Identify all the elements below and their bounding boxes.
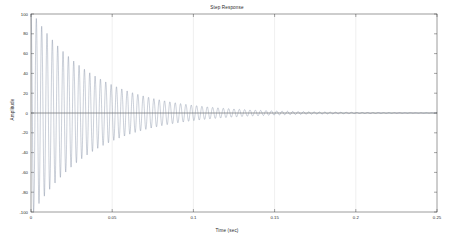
y-tick-label: -100 [12, 210, 28, 215]
chart-title: Step Response [0, 5, 454, 11]
plot-area [0, 0, 454, 242]
y-tick-label: 40 [12, 71, 28, 76]
x-axis-label: Time (sec) [0, 228, 454, 234]
x-tick-label: 0 [16, 215, 46, 220]
figure-canvas: Step Response 00.050.10.150.20.25 -100-8… [0, 0, 454, 242]
y-axis-label: Amplitude [10, 80, 15, 140]
x-tick-label: 0.1 [178, 215, 208, 220]
y-tick-label: 100 [12, 12, 28, 17]
x-tick-label: 0.05 [97, 215, 127, 220]
x-tick-label: 0.15 [260, 215, 290, 220]
y-tick-label: 80 [12, 31, 28, 36]
y-tick-label: -40 [12, 150, 28, 155]
x-tick-label: 0.25 [422, 215, 452, 220]
x-tick-label: 0.2 [341, 215, 371, 220]
y-tick-label: -60 [12, 170, 28, 175]
y-tick-label: 60 [12, 51, 28, 56]
y-tick-label: -80 [12, 190, 28, 195]
